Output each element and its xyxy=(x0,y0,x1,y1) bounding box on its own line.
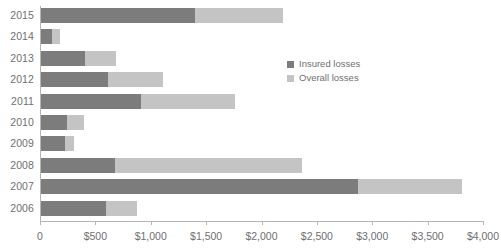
x-axis-tick-1500 xyxy=(206,221,207,225)
bar-insured-losses-2013 xyxy=(40,51,85,66)
y-axis-label-2010: 2010 xyxy=(0,117,34,127)
bar-insured-losses-2007 xyxy=(40,179,358,194)
legend-item-overall-losses: Overall losses xyxy=(287,72,360,84)
legend-swatch-overall-losses xyxy=(287,75,294,82)
y-axis-label-2012: 2012 xyxy=(0,74,34,84)
bar-insured-losses-2008 xyxy=(40,158,115,173)
y-axis-label-2011: 2011 xyxy=(0,96,34,106)
bar-overall-losses-2015 xyxy=(195,8,283,23)
x-axis-label-2000: $2,000 xyxy=(245,230,277,242)
x-axis-tick-4000 xyxy=(483,221,484,225)
x-axis-tick-500 xyxy=(95,221,96,225)
x-axis-tick-3000 xyxy=(372,221,373,225)
bar-overall-losses-2011 xyxy=(141,94,235,109)
bar-overall-losses-2010 xyxy=(67,115,84,130)
bar-group-2011 xyxy=(40,94,483,109)
bar-overall-losses-2006 xyxy=(106,201,137,216)
legend-label-insured-losses: Insured losses xyxy=(299,58,360,70)
x-axis-label-3500: $3,500 xyxy=(412,230,444,242)
bar-overall-losses-2012 xyxy=(108,72,163,87)
legend-item-insured-losses: Insured losses xyxy=(287,58,360,70)
y-axis-label-2014: 2014 xyxy=(0,31,34,41)
bar-group-2013 xyxy=(40,51,483,66)
y-axis-line xyxy=(40,6,41,221)
bar-group-2006 xyxy=(40,201,483,216)
x-axis-tick-2500 xyxy=(317,221,318,225)
y-axis-label-2009: 2009 xyxy=(0,138,34,148)
y-axis-category-labels: 2015201420132012201120102009200820072006 xyxy=(0,6,34,221)
legend-label-overall-losses: Overall losses xyxy=(299,72,359,84)
bar-group-2015 xyxy=(40,8,483,23)
y-axis-label-2015: 2015 xyxy=(0,10,34,20)
x-axis-label-3000: $3,000 xyxy=(356,230,388,242)
y-axis-label-2013: 2013 xyxy=(0,53,34,63)
bar-overall-losses-2008 xyxy=(115,158,302,173)
bar-insured-losses-2015 xyxy=(40,8,195,23)
legend-swatch-insured-losses xyxy=(287,61,294,68)
x-axis-label-500: $500 xyxy=(84,230,107,242)
x-axis-tick-2000 xyxy=(262,221,263,225)
bar-group-2012 xyxy=(40,72,483,87)
bar-group-2007 xyxy=(40,179,483,194)
bar-group-2009 xyxy=(40,136,483,151)
bar-insured-losses-2014 xyxy=(40,29,52,44)
y-axis-label-2008: 2008 xyxy=(0,160,34,170)
bar-overall-losses-2014 xyxy=(52,29,60,44)
x-axis-tick-0 xyxy=(40,221,41,225)
y-axis-label-2006: 2006 xyxy=(0,203,34,213)
x-axis-tick-3500 xyxy=(428,221,429,225)
bar-overall-losses-2007 xyxy=(358,179,462,194)
x-axis-label-0: 0 xyxy=(37,230,43,242)
chart-legend: Insured losses Overall losses xyxy=(287,58,360,86)
bar-insured-losses-2006 xyxy=(40,201,106,216)
bar-insured-losses-2011 xyxy=(40,94,141,109)
bar-insured-losses-2009 xyxy=(40,136,65,151)
bar-overall-losses-2009 xyxy=(65,136,73,151)
x-axis-label-1000: $1,000 xyxy=(135,230,167,242)
bar-chart: 2015201420132012201120102009200820072006… xyxy=(0,0,501,251)
bar-group-2008 xyxy=(40,158,483,173)
x-axis-label-1500: $1,500 xyxy=(190,230,222,242)
plot-area xyxy=(40,6,483,221)
y-axis-label-2007: 2007 xyxy=(0,181,34,191)
bar-group-2014 xyxy=(40,29,483,44)
x-axis-label-4000: $4,000 xyxy=(467,230,499,242)
x-axis-tick-1000 xyxy=(151,221,152,225)
bar-insured-losses-2010 xyxy=(40,115,67,130)
bar-group-2010 xyxy=(40,115,483,130)
bar-overall-losses-2013 xyxy=(85,51,117,66)
bar-insured-losses-2012 xyxy=(40,72,108,87)
x-axis-label-2500: $2,500 xyxy=(301,230,333,242)
